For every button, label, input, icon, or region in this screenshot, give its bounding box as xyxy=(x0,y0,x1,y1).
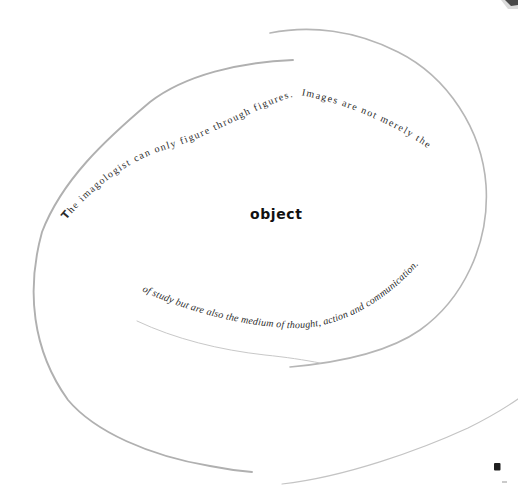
lower-quote-text: of study but are also the medium of thou… xyxy=(0,0,456,330)
printer-mark xyxy=(494,463,501,471)
lower-quote-content: of study but are also the medium of thou… xyxy=(141,258,420,330)
book-page: The imagologist can only figure through … xyxy=(0,0,518,487)
upper-quote-rest: he imagologist can only figure through f… xyxy=(65,86,434,215)
spiral-arc-second xyxy=(270,29,486,367)
printer-mark-faint xyxy=(502,481,507,483)
corner-fold-shadow xyxy=(501,0,518,9)
spiral-arc-outer xyxy=(34,60,293,472)
spiral-typography-figure: The imagologist can only figure through … xyxy=(0,0,518,487)
upper-quote-text: The imagologist can only figure through … xyxy=(0,0,490,221)
spiral-arc-bottom xyxy=(282,399,518,484)
center-word: object xyxy=(250,206,303,222)
